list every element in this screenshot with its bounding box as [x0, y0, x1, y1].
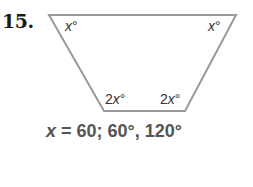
angle-variable: x — [113, 91, 120, 107]
answer-variable: x — [46, 121, 56, 141]
angle-variable: x — [65, 18, 72, 34]
angle-label-bottom-left: 2x° — [105, 91, 125, 107]
angle-coef: 2 — [105, 91, 113, 107]
angle-label-bottom-right: 2x° — [160, 91, 180, 107]
degree-symbol: ° — [120, 91, 126, 107]
angle-coef: 2 — [160, 91, 168, 107]
answer-text: x = 60; 60°, 120° — [46, 121, 182, 142]
degree-symbol: ° — [175, 91, 181, 107]
angle-label-top-left: x° — [65, 18, 78, 34]
angle-variable: x — [208, 18, 215, 34]
degree-symbol: ° — [215, 18, 221, 34]
degree-symbol: ° — [72, 18, 78, 34]
angle-variable: x — [168, 91, 175, 107]
angle-label-top-right: x° — [208, 18, 221, 34]
answer-values: = 60; 60°, 120° — [56, 121, 182, 141]
